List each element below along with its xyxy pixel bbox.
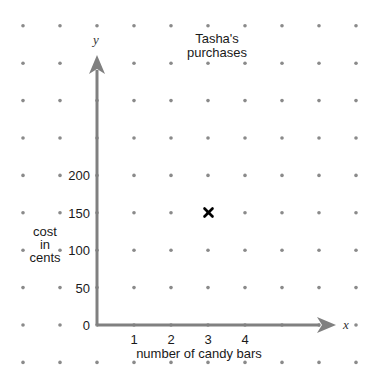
grid-dot	[317, 99, 321, 103]
grid-dot	[243, 248, 247, 252]
y-tick-labels: 050100150200	[68, 168, 90, 333]
grid-dot	[21, 24, 25, 28]
x-marker-icon	[205, 209, 213, 217]
grid-dot	[95, 24, 99, 28]
grid-dot	[354, 136, 358, 140]
grid-dot	[132, 211, 136, 215]
grid-dot	[21, 323, 25, 327]
grid-dot	[58, 99, 62, 103]
x-tick-label: 1	[130, 332, 137, 347]
grid-dot	[354, 211, 358, 215]
grid-dot	[280, 174, 284, 178]
grid-dot	[206, 286, 210, 290]
grid-dot	[21, 286, 25, 290]
grid-dot	[280, 286, 284, 290]
grid-dot	[169, 248, 173, 252]
x-axis	[97, 317, 336, 333]
grid-dot	[206, 24, 210, 28]
grid-dot	[58, 211, 62, 215]
grid-dot	[21, 361, 25, 365]
grid-dot	[206, 61, 210, 65]
x-tick-label: 2	[167, 332, 174, 347]
grid-dot	[280, 361, 284, 365]
chart-title-line-2: purchases	[187, 45, 247, 60]
grid-dot	[317, 286, 321, 290]
x-tick-label: 3	[204, 332, 211, 347]
grid-dot	[21, 136, 25, 140]
grid-dot	[21, 211, 25, 215]
grid-dot	[317, 24, 321, 28]
grid-dot	[317, 61, 321, 65]
grid-dot	[206, 136, 210, 140]
grid-dot	[354, 61, 358, 65]
grid-dot	[169, 24, 173, 28]
grid-dot	[169, 361, 173, 365]
grid-dot	[58, 361, 62, 365]
grid-dot	[243, 361, 247, 365]
grid-dot	[21, 174, 25, 178]
y-tick-label: 150	[68, 206, 90, 221]
grid-dot	[354, 286, 358, 290]
x-tick-label: 4	[241, 332, 248, 347]
grid-dot	[280, 136, 284, 140]
x-tick-labels: 1234	[130, 332, 248, 347]
grid-dot	[132, 99, 136, 103]
grid-dot	[317, 211, 321, 215]
grid-dot	[280, 61, 284, 65]
grid-dot	[169, 99, 173, 103]
grid-dot	[169, 136, 173, 140]
grid-dot	[243, 99, 247, 103]
grid-dot	[132, 136, 136, 140]
grid-dot	[354, 323, 358, 327]
y-tick-label: 200	[68, 168, 90, 183]
chart-title-line-1: Tasha's	[195, 31, 239, 46]
grid-dot	[243, 61, 247, 65]
grid-dot	[317, 361, 321, 365]
x-axis-label: number of candy bars	[136, 346, 262, 361]
chart-canvas: y x Tasha's purchases 050100150200 1234 …	[0, 0, 380, 380]
grid-dot	[317, 248, 321, 252]
x-axis-letter: x	[342, 317, 349, 332]
grid-dot	[132, 174, 136, 178]
grid-dot	[354, 99, 358, 103]
grid-dot	[132, 24, 136, 28]
grid-dot	[58, 323, 62, 327]
grid-dot	[206, 174, 210, 178]
grid-dot	[243, 286, 247, 290]
y-tick-label: 100	[68, 243, 90, 258]
grid-dot	[132, 61, 136, 65]
grid-dot	[58, 61, 62, 65]
grid-dot	[206, 99, 210, 103]
grid-dot	[206, 361, 210, 365]
grid-dot	[21, 248, 25, 252]
grid-dot	[21, 99, 25, 103]
data-points	[205, 209, 213, 217]
grid-dot	[132, 248, 136, 252]
grid-dot	[354, 24, 358, 28]
grid-dot	[280, 24, 284, 28]
dot-grid	[21, 24, 358, 364]
grid-dot	[354, 174, 358, 178]
y-tick-label: 0	[83, 318, 90, 333]
grid-dot	[317, 174, 321, 178]
y-tick-label: 50	[76, 281, 90, 296]
grid-dot	[243, 136, 247, 140]
grid-dot	[354, 248, 358, 252]
grid-dot	[206, 248, 210, 252]
grid-dot	[169, 211, 173, 215]
y-axis	[89, 55, 105, 325]
grid-dot	[169, 61, 173, 65]
grid-dot	[58, 136, 62, 140]
grid-dot	[280, 211, 284, 215]
grid-dot	[58, 286, 62, 290]
grid-dot	[132, 361, 136, 365]
grid-dot	[21, 61, 25, 65]
grid-dot	[169, 286, 173, 290]
grid-dot	[243, 211, 247, 215]
grid-dot	[317, 136, 321, 140]
grid-dot	[58, 24, 62, 28]
grid-dot	[280, 99, 284, 103]
grid-dot	[132, 286, 136, 290]
grid-dot	[354, 361, 358, 365]
y-axis-letter: y	[91, 32, 99, 47]
